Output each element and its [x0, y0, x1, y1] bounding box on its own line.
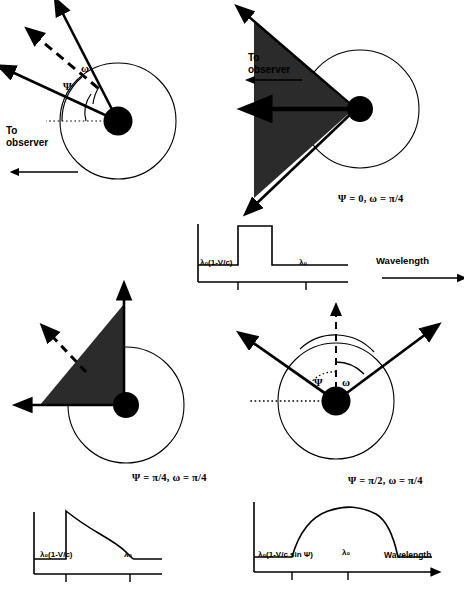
panel-1-observer-label-line2: observer	[6, 137, 48, 148]
figure-root: Ψ ω To observer To observe	[0, 0, 464, 592]
spectrum-1-xtick-label-2: λ₀	[299, 258, 307, 267]
panel-4-psi-label: Ψ	[314, 376, 323, 388]
spectrum-1-xtick-label-1: λ₀(1-V/c)	[200, 258, 233, 267]
panel-4-omega-label: ω	[342, 376, 350, 388]
panel-2-observer-label-line2: observer	[248, 64, 290, 75]
spectrum-3-xtick-label-1: λ₀(1-V/c sin Ψ)	[258, 550, 313, 559]
spectrum-1-plot: λ₀(1-V/c) λ₀ Wavelength	[186, 222, 464, 292]
panel-3-caption: Ψ = π/4, ω = π/4	[132, 472, 207, 483]
panel-2-geometry: To observer	[232, 8, 464, 208]
panel-2-svg	[232, 8, 464, 208]
panel-4-caption: Ψ = π/2, ω = π/4	[348, 475, 423, 486]
panel-2-observer-label-line1: To	[248, 52, 259, 63]
panel-1-arc-omega	[93, 87, 99, 104]
spectrum-2-xtick-label-1: λ₀(1-V/c)	[40, 550, 73, 559]
spectrum-3-plot: λ₀(1-V/c sin Ψ) λ₀ Wavelength	[236, 500, 464, 590]
panel-1-omega-label: ω	[81, 62, 89, 74]
panel-4-arc-omega	[336, 362, 364, 374]
panel-4-ray-left	[252, 342, 336, 401]
spectrum-2-svg	[14, 502, 230, 590]
spectrum-3-svg	[236, 500, 464, 590]
panel-2-caption: Ψ = 0, ω = π/4	[338, 193, 404, 204]
panel-4-svg	[238, 300, 460, 480]
spectrum-1-axis-title: Wavelength	[376, 255, 429, 266]
panel-4-geometry: Ψ ω	[238, 300, 460, 480]
spectrum-2-plot: λ₀(1-V/c) λ₀	[14, 502, 230, 590]
panel-3-geometry	[14, 286, 234, 476]
panel-3-ray-bisector-dashed	[52, 336, 86, 372]
panel-3-beaming-cone	[40, 304, 124, 405]
panel-1-psi-label: Ψ	[63, 80, 72, 92]
panel-1-observer-label-line1: To	[6, 125, 17, 136]
spectrum-2-xtick-label-2: λ₀	[124, 550, 132, 559]
panel-3-svg	[14, 286, 234, 476]
panel-4-source-dot	[322, 387, 351, 416]
panel-1-geometry: Ψ ω To observer	[0, 0, 230, 200]
spectrum-3-xtick-label-2: λ₀	[342, 548, 350, 557]
panel-1-svg	[0, 0, 230, 200]
spectrum-3-axis-title: Wavelength	[384, 550, 431, 560]
